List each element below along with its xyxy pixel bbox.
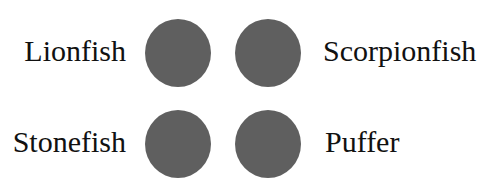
circle-lionfish (145, 19, 211, 87)
label-stonefish: Stonefish (13, 127, 126, 157)
circle-scorpionfish (235, 19, 301, 87)
circle-puffer (235, 110, 301, 178)
label-scorpionfish: Scorpionfish (323, 36, 476, 66)
label-puffer: Puffer (325, 127, 399, 157)
circle-stonefish (145, 110, 211, 178)
label-lionfish: Lionfish (24, 36, 126, 66)
